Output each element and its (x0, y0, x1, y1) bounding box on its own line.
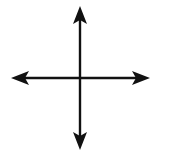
four-way-arrow-diagram (0, 0, 183, 165)
axes-cross-icon (0, 0, 183, 165)
